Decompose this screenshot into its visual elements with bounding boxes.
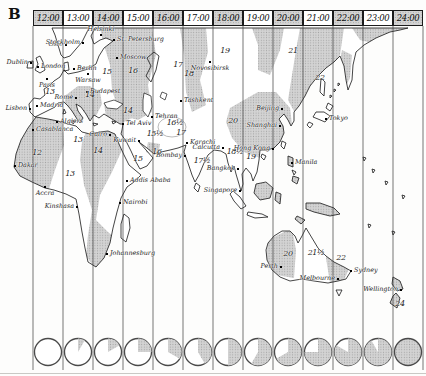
clock-15-00 [125, 339, 152, 366]
clock-23-00 [365, 338, 392, 365]
clock-17-00 [185, 338, 212, 365]
clock-21-00 [305, 339, 332, 366]
clock-18-00 [215, 339, 242, 366]
clock-24-00 [395, 339, 422, 366]
clock-16-00 [155, 338, 182, 365]
world-map [0, 0, 426, 376]
clock-shaded-wedge [138, 339, 152, 353]
clock-14-00 [95, 339, 122, 366]
timezone-map-plate: B 12:0013:0014:0015:0016:0017:0018:0019:… [0, 0, 426, 376]
bottom-rule [0, 373, 426, 374]
clock-19-00 [245, 338, 272, 365]
clock-shaded-wedge [228, 339, 242, 366]
clock-13-00 [65, 338, 92, 365]
clock-20-00 [275, 339, 302, 366]
day-fraction-clock-row [35, 338, 422, 365]
clock-22-00 [335, 338, 362, 365]
clock-shaded-wedge [365, 338, 392, 365]
clock-12-00 [35, 339, 62, 366]
